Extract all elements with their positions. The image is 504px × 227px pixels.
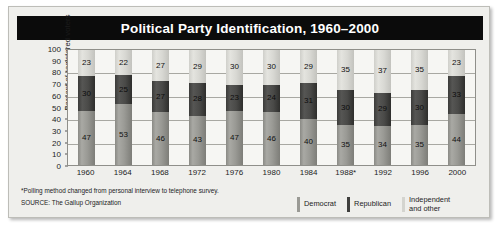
source-note: SOURCE: The Gallup Organization — [21, 199, 271, 208]
bar-value-label: 34 — [378, 141, 387, 149]
bar-segment: 30 — [337, 90, 354, 125]
bar-segment: 31 — [300, 83, 317, 119]
legend-item: Republican — [347, 197, 391, 212]
x-tick-label: 1964 — [106, 168, 140, 177]
footnotes: *Polling method changed from personal in… — [21, 187, 271, 207]
bar-value-label: 30 — [341, 104, 350, 112]
y-tick-label: 50 — [52, 103, 61, 112]
bar-segment: 44 — [448, 114, 465, 165]
y-tick-label: 20 — [52, 138, 61, 147]
bar-segment: 43 — [189, 116, 206, 165]
bar-segment: 27 — [152, 50, 169, 81]
legend-label: Republican — [354, 199, 391, 208]
legend-swatch — [347, 197, 350, 212]
method-note: *Polling method changed from personal in… — [21, 187, 271, 196]
chart-title-banner: Political Party Identification, 1960–200… — [17, 16, 483, 40]
bar-segment: 40 — [300, 119, 317, 165]
y-tick-label: 10 — [52, 150, 61, 159]
bar-column: 292843 — [189, 50, 206, 165]
legend-label: Democrat — [304, 199, 336, 208]
bar-value-label: 23 — [452, 59, 461, 67]
bar-segment: 35 — [411, 50, 428, 90]
bar-value-label: 35 — [341, 66, 350, 74]
bar-value-label: 44 — [452, 136, 461, 144]
x-tick-label: 1960 — [69, 168, 103, 177]
bar-segment: 23 — [226, 85, 243, 111]
bar-segment: 34 — [374, 126, 391, 165]
bar-column: 372934 — [374, 50, 391, 165]
bar-value-label: 47 — [230, 134, 239, 142]
x-tick-label: 1968 — [143, 168, 177, 177]
bar-segment: 46 — [263, 112, 280, 165]
bar-segment: 23 — [78, 50, 95, 76]
bar-segment: 30 — [263, 50, 280, 85]
bar-column: 302446 — [263, 50, 280, 165]
x-tick-label: 1988* — [329, 168, 363, 177]
bar-column: 222553 — [115, 50, 132, 165]
y-axis-ticks: 1009080706050403020100 — [39, 49, 65, 166]
bar-value-label: 35 — [341, 141, 350, 149]
legend-item: Independent and other — [402, 195, 463, 214]
x-tick-label: 1984 — [292, 168, 326, 177]
bar-value-label: 37 — [378, 67, 387, 75]
bar-value-label: 46 — [267, 135, 276, 143]
y-tick-label: 60 — [52, 91, 61, 100]
bar-value-label: 29 — [304, 63, 313, 71]
bar-value-label: 24 — [267, 94, 276, 102]
bar-value-label: 29 — [378, 105, 387, 113]
chart-plot-region: Percent of registered voters 10090807060… — [17, 44, 483, 184]
bar-column: 293140 — [300, 50, 317, 165]
legend-swatch — [402, 197, 405, 212]
bar-value-label: 47 — [82, 134, 91, 142]
bar-segment: 30 — [411, 90, 428, 125]
bar-segment: 29 — [189, 50, 206, 83]
y-tick-label: 90 — [52, 56, 61, 65]
bar-segment: 24 — [263, 85, 280, 113]
bar-segment: 35 — [337, 125, 354, 165]
bar-value-label: 30 — [415, 104, 424, 112]
bar-segment: 47 — [226, 111, 243, 165]
bar-value-label: 53 — [119, 131, 128, 139]
bar-column: 272746 — [152, 50, 169, 165]
bar-value-label: 25 — [119, 86, 128, 94]
y-tick-label: 40 — [52, 115, 61, 124]
bar-group: 2330472225532727462928433023473024462931… — [68, 50, 475, 165]
bar-segment: 35 — [411, 125, 428, 165]
x-tick-label: 1980 — [254, 168, 288, 177]
bar-segment: 33 — [448, 76, 465, 114]
legend-item: Democrat — [297, 197, 336, 212]
bar-segment: 47 — [78, 111, 95, 165]
chart-legend: DemocratRepublicanIndependent and other — [297, 191, 487, 217]
bar-segment: 30 — [226, 50, 243, 85]
bar-value-label: 43 — [193, 136, 202, 144]
bar-value-label: 30 — [82, 90, 91, 98]
bar-value-label: 40 — [304, 138, 313, 146]
chart-card: Political Party Identification, 1960–200… — [8, 6, 490, 218]
bar-value-label: 35 — [415, 141, 424, 149]
bar-segment: 35 — [337, 50, 354, 90]
bar-value-label: 46 — [156, 135, 165, 143]
bar-value-label: 35 — [415, 66, 424, 74]
chart-figure: Political Party Identification, 1960–200… — [0, 0, 504, 227]
bar-value-label: 22 — [119, 59, 128, 67]
bar-value-label: 28 — [193, 95, 202, 103]
x-tick-label: 1976 — [217, 168, 251, 177]
bar-segment: 29 — [374, 93, 391, 126]
page-title: Political Party Identification, 1960–200… — [121, 21, 379, 36]
bar-segment: 25 — [115, 75, 132, 104]
plot-box: 2330472225532727462928433023473024462931… — [67, 49, 476, 166]
bar-segment: 37 — [374, 50, 391, 93]
bar-column: 353035 — [337, 50, 354, 165]
bar-value-label: 33 — [452, 91, 461, 99]
bar-segment: 46 — [152, 112, 169, 165]
x-tick-label: 1992 — [366, 168, 400, 177]
y-tick-label: 0 — [57, 162, 61, 171]
bar-segment: 22 — [115, 50, 132, 75]
bar-segment: 30 — [78, 76, 95, 111]
y-tick-label: 70 — [52, 80, 61, 89]
bar-segment: 28 — [189, 83, 206, 115]
bar-value-label: 29 — [193, 63, 202, 71]
bar-value-label: 23 — [230, 94, 239, 102]
bar-value-label: 30 — [267, 63, 276, 71]
x-tick-label: 1996 — [403, 168, 437, 177]
